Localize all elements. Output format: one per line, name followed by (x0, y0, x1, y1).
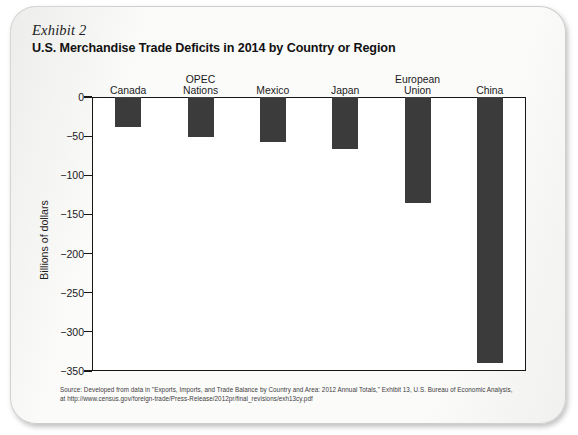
y-axis-tick-label: −50 (38, 130, 84, 142)
y-axis-line (92, 97, 93, 371)
plot-area (92, 97, 526, 371)
y-axis-tick (84, 370, 92, 371)
y-axis-tick-label: −350 (38, 365, 84, 377)
x-axis-category-label: China (442, 85, 538, 97)
source-line-1: Source: Developed from data in "Exports,… (60, 385, 540, 394)
bar (405, 97, 431, 203)
bar (188, 97, 214, 137)
y-axis-tick (84, 253, 92, 254)
x-axis-category-label-line: European (370, 74, 466, 86)
y-axis-tick (84, 96, 92, 97)
bar (477, 97, 503, 363)
y-axis-tick (84, 136, 92, 137)
source-line-2: at http://www.census.gov/foreign-trade/P… (60, 394, 540, 403)
x-axis-category-label-line: China (442, 85, 538, 97)
y-axis-tick (84, 292, 92, 293)
y-axis-tick (84, 175, 92, 176)
bar (260, 97, 286, 142)
bar (332, 97, 358, 149)
y-axis-tick-label: −300 (38, 326, 84, 338)
bar (115, 97, 141, 127)
y-axis-tick (84, 214, 92, 215)
bar-chart: 0−50−100−150−200−250−300−350 Billions of… (0, 0, 578, 435)
y-axis-tick (84, 331, 92, 332)
y-axis-title: Billions of dollars (38, 170, 50, 310)
source-note: Source: Developed from data in "Exports,… (60, 385, 540, 404)
x-axis-category-label-line: OPEC (153, 74, 249, 86)
y-axis-tick-label: 0 (38, 91, 84, 103)
